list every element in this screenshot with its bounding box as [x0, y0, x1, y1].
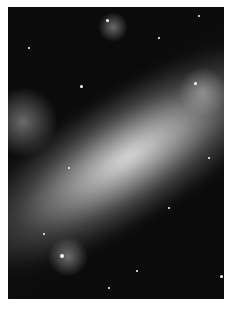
star [28, 47, 30, 49]
star [136, 270, 138, 272]
nebula-lower [48, 237, 88, 277]
star [60, 254, 64, 258]
star [43, 233, 45, 235]
star [80, 85, 83, 88]
star [220, 275, 223, 278]
star [108, 287, 110, 289]
star [158, 37, 160, 39]
star [68, 167, 70, 169]
nebula-upper-right [178, 67, 224, 117]
star [168, 207, 170, 209]
galaxy-bar [8, 11, 224, 299]
nebula-top [98, 12, 128, 42]
galaxy-photo [8, 7, 224, 299]
star [208, 157, 210, 159]
star [106, 19, 109, 22]
star [198, 15, 200, 17]
star [194, 82, 197, 85]
